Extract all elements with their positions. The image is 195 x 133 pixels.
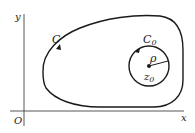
outer-contour-c — [43, 16, 183, 108]
radius-label: ρ — [149, 52, 157, 65]
inner-circle-label: C0 — [143, 33, 157, 47]
y-axis-label: y — [14, 11, 21, 22]
center-point-label: z0 — [143, 71, 154, 84]
outer-contour-label: C — [52, 33, 61, 46]
inner-circle-label-sub: 0 — [151, 38, 156, 47]
origin-label: O — [14, 115, 22, 126]
center-point-label-sub: 0 — [149, 75, 154, 84]
x-axis-label: x — [181, 112, 187, 123]
contour-diagram: y x O C C0 ρ z0 — [0, 0, 195, 133]
